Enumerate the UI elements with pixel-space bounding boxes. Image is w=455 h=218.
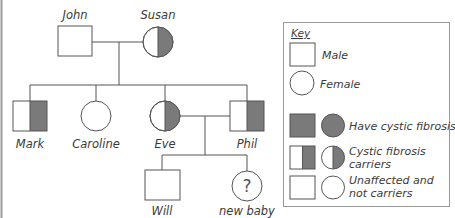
key-label: Male — [322, 49, 348, 62]
name-label: Phil — [237, 137, 258, 151]
person-mark: Mark — [13, 101, 47, 151]
female-circle-unaffected — [81, 101, 111, 131]
key-title: Key — [291, 27, 311, 39]
person-susan: Susan — [141, 8, 176, 57]
carrier-half-fill — [165, 101, 180, 131]
female-circle-icon — [290, 71, 314, 95]
question-mark-icon: ? — [242, 176, 251, 196]
carrier-half-fill — [30, 101, 47, 131]
unaffected-square-icon — [290, 176, 315, 199]
key-label-line1: Cystic fibrosis — [349, 145, 426, 158]
carrier-half-fill — [247, 101, 264, 131]
name-label: Eve — [154, 137, 175, 151]
key-legend: Key Male Female Have cystic fibrosis Cys… — [284, 23, 455, 207]
male-square-icon — [290, 43, 315, 66]
key-label: Female — [320, 78, 361, 91]
key-label-line2: carriers — [349, 158, 391, 171]
name-label: Caroline — [72, 137, 120, 151]
male-square-unaffected — [58, 26, 92, 56]
name-label: Will — [152, 204, 174, 218]
name-label: Mark — [16, 137, 46, 151]
key-label-line2: not carriers — [349, 187, 413, 200]
name-label: Susan — [141, 8, 176, 22]
person-new-baby: ? new baby — [219, 171, 275, 218]
key-label-line1: Unaffected and — [349, 174, 435, 187]
carrier-half-fill — [158, 27, 173, 57]
pedigree-diagram: John Susan Mark Caroline Eve Phil — [0, 0, 455, 218]
name-label: new baby — [219, 204, 275, 218]
person-john: John — [58, 8, 92, 56]
affected-circle-icon — [322, 114, 345, 137]
unaffected-circle-icon — [322, 176, 345, 199]
key-label: Have cystic fibrosis — [349, 120, 455, 133]
person-eve: Eve — [150, 101, 180, 151]
male-square-unaffected — [145, 170, 180, 200]
person-phil: Phil — [230, 101, 264, 151]
person-caroline: Caroline — [72, 101, 120, 151]
affected-square-icon — [290, 114, 315, 137]
name-label: John — [60, 8, 87, 22]
person-will: Will — [145, 170, 180, 218]
